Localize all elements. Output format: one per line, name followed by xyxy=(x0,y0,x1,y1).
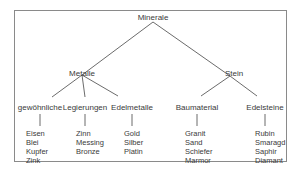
leaf-item: Kupfer xyxy=(26,147,48,156)
leaf-item: Sand xyxy=(185,138,213,147)
leaf-item: Platin xyxy=(124,147,143,156)
node-stein: Stein xyxy=(225,69,243,78)
leaf-item: Blei xyxy=(26,138,48,147)
node-baumaterial: Baumaterial xyxy=(176,103,219,112)
node-minerale: Minerale xyxy=(138,13,169,22)
leaf-item: Granit xyxy=(185,129,213,138)
leaf-list-baumaterial: Granit Sand Schiefer Marmor xyxy=(185,129,213,165)
leaf-item: Messing xyxy=(76,138,104,147)
node-gewoehnliche: gewöhnliche xyxy=(18,103,62,112)
leaf-item: Schiefer xyxy=(185,147,213,156)
leaf-item: Eisen xyxy=(26,129,48,138)
leaf-item: Smaragd xyxy=(255,138,285,147)
leaf-list-edelmetalle: Gold Silber Platin xyxy=(124,129,143,156)
leaf-item: Zinn xyxy=(76,129,104,138)
leaf-item: Zink xyxy=(26,156,48,165)
node-metalle: Metalle xyxy=(69,69,95,78)
leaf-list-edelsteine: Rubin Smaragd Saphir Diamant xyxy=(255,129,285,165)
leaf-list-gewoehnliche: Eisen Blei Kupfer Zink xyxy=(26,129,48,165)
leaf-item: Marmor xyxy=(185,156,213,165)
leaf-item: Bronze xyxy=(76,147,104,156)
node-edelmetalle: Edelmetalle xyxy=(111,103,153,112)
leaf-item: Saphir xyxy=(255,147,285,156)
node-legierungen: Legierungen xyxy=(63,103,107,112)
node-edelsteine: Edelsteine xyxy=(246,103,283,112)
leaf-item: Gold xyxy=(124,129,143,138)
leaf-item: Silber xyxy=(124,138,143,147)
leaf-list-legierungen: Zinn Messing Bronze xyxy=(76,129,104,156)
leaf-item: Diamant xyxy=(255,156,285,165)
leaf-item: Rubin xyxy=(255,129,285,138)
